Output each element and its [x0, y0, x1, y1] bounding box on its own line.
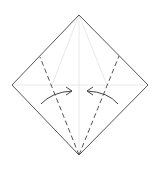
origami-diagram [0, 0, 157, 169]
right-diagonal-crease [79, 15, 107, 85]
left-valley-fold [40, 57, 79, 155]
valley-fold-lines [40, 56, 119, 155]
crease-lines [12, 15, 148, 155]
right-valley-fold [79, 56, 119, 155]
right-fold-arrow-icon [87, 91, 118, 104]
left-diagonal-crease [52, 15, 79, 85]
left-fold-arrow-icon [41, 91, 72, 104]
fold-arrows [41, 87, 118, 104]
